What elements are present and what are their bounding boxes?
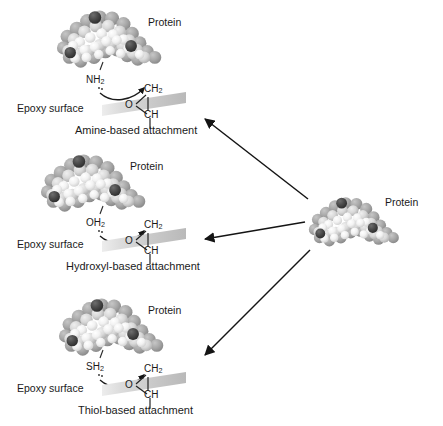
functional-group-thiol: SH2 [86, 362, 104, 372]
epoxide-oxygen-amine: O [125, 100, 133, 110]
epoxy-surface-label-thiol: Epoxy surface [17, 383, 84, 394]
functional-group-amine-sub: 2 [100, 77, 104, 86]
arrow-to-hydroxyl [205, 222, 305, 239]
functional-group-hydroxyl: OH2 [86, 218, 105, 228]
diagram-svg [0, 0, 443, 426]
functional-group-hydroxyl-text: OH [86, 217, 101, 228]
caption-thiol: Thiol-based attachment [78, 405, 193, 416]
figure-canvas: Protein NH2 Epoxy surface CH2 O CH Amine… [0, 0, 443, 426]
epoxy-surface-label-amine: Epoxy surface [17, 103, 84, 114]
protein-molecule-amine [57, 10, 161, 67]
arrow-to-amine [205, 119, 308, 199]
epoxide-ch2-thiol: CH2 [144, 364, 162, 374]
functional-group-hydroxyl-sub: 2 [101, 220, 105, 229]
protein-label-amine: Protein [148, 17, 181, 28]
epoxide-ch2-hydroxyl-text: CH [144, 219, 158, 230]
caption-amine: Amine-based attachment [75, 125, 197, 136]
epoxide-ch-hydroxyl: CH [144, 246, 158, 256]
caption-hydroxyl: Hydroxyl-based attachment [66, 261, 200, 272]
bond-line-thiol [100, 350, 103, 358]
epoxide-ch2-amine: CH2 [144, 84, 162, 94]
protein-label-source: Protein [385, 197, 418, 208]
epoxide-ch2-thiol-text: CH [144, 363, 158, 374]
epoxide-oxygen-hydroxyl: O [125, 236, 133, 246]
epoxide-ch2-hydroxyl: CH2 [144, 220, 162, 230]
epoxide-ch-thiol: CH [144, 390, 158, 400]
protein-label-hydroxyl: Protein [130, 161, 163, 172]
epoxide-ch2-amine-sub: 2 [158, 86, 162, 95]
epoxide-ch2-amine-text: CH [144, 83, 158, 94]
epoxide-oxygen-thiol: O [125, 380, 133, 390]
protein-label-thiol: Protein [148, 305, 181, 316]
bond-line-hydroxyl [100, 206, 103, 214]
functional-group-amine: NH2 [86, 75, 104, 85]
functional-group-thiol-sub: 2 [100, 364, 104, 373]
functional-group-thiol-text: SH [86, 361, 100, 372]
bond-line-amine [100, 62, 103, 70]
epoxide-ch2-hydroxyl-sub: 2 [158, 222, 162, 231]
epoxide-ch-amine: CH [144, 110, 158, 120]
epoxide-ch2-thiol-sub: 2 [158, 366, 162, 375]
epoxy-surface-label-hydroxyl: Epoxy surface [17, 239, 84, 250]
mechanism-arrow-amine [100, 88, 144, 100]
functional-group-amine-text: NH [86, 74, 100, 85]
arrow-to-thiol [205, 250, 310, 355]
